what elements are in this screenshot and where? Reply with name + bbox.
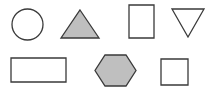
shape-canvas [0,0,214,88]
square-shape [161,59,188,85]
shapes-svg [0,0,214,88]
triangle-up-shape [61,10,99,38]
hexagon-shape [95,55,136,86]
circle-shape [12,9,43,40]
rectangle-landscape-shape [11,58,66,82]
triangle-down-shape [172,9,204,37]
rectangle-portrait-shape [129,5,154,38]
